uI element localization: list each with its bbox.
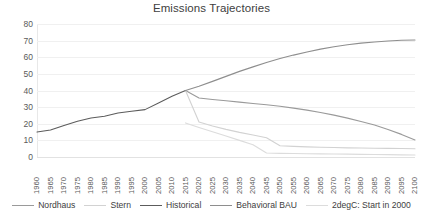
legend-label: Stern (110, 201, 131, 210)
x-tick-label: 2055 (290, 177, 298, 194)
x-tick-label: 2035 (236, 177, 244, 194)
y-tick-label: 50 (24, 70, 33, 79)
x-tick-label: 2040 (249, 177, 257, 194)
x-tick-label: 1985 (101, 177, 109, 194)
legend-item[interactable]: Nordhaus (12, 201, 75, 210)
x-tick-label: 1975 (74, 177, 82, 194)
x-tick-label: 2015 (182, 177, 190, 194)
y-tick-label: 10 (24, 136, 33, 145)
x-tick-label: 1965 (47, 177, 55, 194)
x-tick-label: 2080 (357, 177, 365, 194)
x-tick-label: 2100 (411, 177, 419, 194)
legend-label: Behavioral BAU (236, 201, 297, 210)
x-tick-label: 2005 (155, 177, 163, 194)
y-tick-label: 80 (24, 20, 33, 29)
y-tick-label: 30 (24, 103, 33, 112)
legend-swatch (210, 205, 232, 206)
x-tick-label: 2020 (195, 177, 203, 194)
x-tick-label: 2025 (209, 177, 217, 194)
x-tick-label: 2010 (168, 177, 176, 194)
y-tick-label: 40 (24, 86, 33, 95)
x-tick-label: 2045 (263, 177, 271, 194)
series-line (37, 91, 186, 133)
x-tick-label: 2030 (222, 177, 230, 194)
legend-label: Nordhaus (38, 201, 75, 210)
legend-item[interactable]: Behavioral BAU (210, 201, 297, 210)
legend-label: Historical (166, 201, 201, 210)
x-tick-label: 2000 (141, 177, 149, 194)
series-line (186, 91, 416, 149)
x-tick-label: 1970 (60, 177, 68, 194)
x-tick-label: 1960 (33, 177, 41, 194)
x-tick-label: 2060 (303, 177, 311, 194)
series-line (186, 40, 416, 91)
x-tick-label: 2090 (384, 177, 392, 194)
x-tick-label: 2075 (344, 177, 352, 194)
legend-item[interactable]: Historical (140, 201, 201, 210)
x-tick-label: 1995 (128, 177, 136, 194)
chart-legend: NordhausSternHistoricalBehavioral BAU2de… (0, 196, 423, 214)
y-tick-label: 0 (28, 153, 33, 162)
x-tick-label: 2070 (330, 177, 338, 194)
x-tick-label: 1990 (114, 177, 122, 194)
legend-swatch (140, 205, 162, 206)
legend-item[interactable]: 2degC: Start in 2000 (306, 201, 411, 210)
x-axis-tick-labels: 1960196519701975198019851990199520002005… (37, 158, 415, 194)
emissions-trajectories-chart: Emissions Trajectories 01020304050607080… (0, 0, 423, 218)
x-tick-label: 2065 (317, 177, 325, 194)
plot-area (37, 24, 415, 157)
chart-title: Emissions Trajectories (0, 2, 423, 14)
x-tick-label: 2050 (276, 177, 284, 194)
legend-swatch (12, 205, 34, 206)
x-tick-label: 1980 (87, 177, 95, 194)
legend-label: 2degC: Start in 2000 (332, 201, 411, 210)
legend-swatch (84, 205, 106, 206)
y-tick-label: 70 (24, 36, 33, 45)
y-tick-label: 20 (24, 120, 33, 129)
y-axis-tick-labels: 01020304050607080 (0, 24, 33, 157)
legend-item[interactable]: Stern (84, 201, 131, 210)
legend-swatch (306, 205, 328, 206)
x-tick-label: 2095 (398, 177, 406, 194)
y-tick-label: 60 (24, 53, 33, 62)
series-line (186, 91, 416, 141)
x-tick-label: 2085 (371, 177, 379, 194)
series-lines (37, 24, 415, 157)
